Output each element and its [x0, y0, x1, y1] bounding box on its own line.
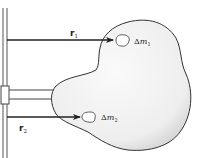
support-bracket: [1, 86, 54, 104]
mass-element-1: [116, 35, 129, 46]
r1-label: r1: [70, 28, 78, 39]
rigid-body-diagram: r1 Δm1 r2 Δm2: [0, 0, 197, 158]
mass-element-2: [82, 112, 95, 122]
r2-label: r2: [19, 123, 27, 134]
rotation-axis: [3, 8, 7, 158]
